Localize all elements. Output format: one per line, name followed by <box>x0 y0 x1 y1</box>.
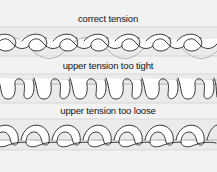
label-correct-tension: correct tension <box>78 13 138 24</box>
stitch-tension-figure: correct tension <box>0 0 217 172</box>
stitch-tension-diagram: correct tension <box>0 0 217 172</box>
label-upper-tension-too-loose: upper tension too loose <box>60 105 155 116</box>
label-upper-tension-too-tight: upper tension too tight <box>63 60 154 71</box>
